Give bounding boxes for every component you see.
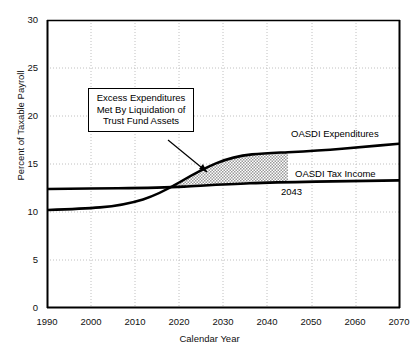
callout-line-1: Excess Expenditures <box>94 92 188 104</box>
series-label-expenditures: OASDI Expenditures <box>291 128 379 139</box>
callout-line-3: Trust Fund Assets <box>94 115 188 127</box>
depletion-year-label: 2043 <box>281 186 302 197</box>
plot-area <box>0 0 419 358</box>
callout-leader-line <box>168 140 207 172</box>
callout-line-2: Met By Liquidation of <box>94 104 188 116</box>
callout-box: Excess Expenditures Met By Liquidation o… <box>88 88 194 132</box>
series-label-tax-income: OASDI Tax Income <box>295 168 376 179</box>
chart-container: Percent of Taxable Payroll Calendar Year… <box>0 0 419 358</box>
